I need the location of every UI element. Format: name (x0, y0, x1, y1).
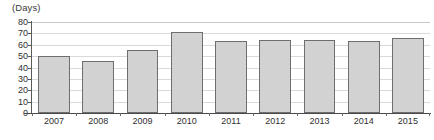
gridline-80 (32, 22, 430, 23)
plot-area (32, 22, 430, 113)
x-tick-label-2011: 2011 (209, 116, 253, 127)
y-axis-unit-label: (Days) (12, 2, 41, 14)
y-tick-label-30: 30 (2, 74, 28, 83)
x-tick-label-2008: 2008 (76, 116, 120, 127)
bar-chart-figure: (Days) 01020304050607080 200720082009201… (0, 0, 434, 140)
x-tick-label-2010: 2010 (165, 116, 209, 127)
bar-2011 (215, 41, 247, 113)
x-tick-label-2007: 2007 (32, 116, 76, 127)
bar-2012 (259, 40, 291, 113)
x-axis-tick-labels: 200720082009201020112012201320142015 (32, 116, 430, 132)
x-tick-label-2009: 2009 (120, 116, 164, 127)
x-tick-label-2013: 2013 (297, 116, 341, 127)
bar-2014 (348, 41, 380, 113)
y-tick-label-60: 60 (2, 40, 28, 49)
y-axis-tick-labels: 01020304050607080 (0, 22, 28, 113)
bar-2007 (38, 56, 70, 113)
y-tick-label-10: 10 (2, 97, 28, 106)
y-tick-label-50: 50 (2, 52, 28, 61)
bar-2010 (171, 32, 203, 113)
bar-2009 (127, 50, 159, 113)
y-tick-label-70: 70 (2, 29, 28, 38)
y-tick-label-40: 40 (2, 63, 28, 72)
x-tick-label-2012: 2012 (253, 116, 297, 127)
bar-2015 (392, 38, 424, 113)
x-tick-label-2015: 2015 (386, 116, 430, 127)
bar-2008 (82, 61, 114, 113)
gridline-70 (32, 33, 430, 34)
x-tick-label-2014: 2014 (342, 116, 386, 127)
y-tick-label-80: 80 (2, 18, 28, 27)
bar-2013 (304, 40, 336, 113)
y-tick-label-20: 20 (2, 86, 28, 95)
